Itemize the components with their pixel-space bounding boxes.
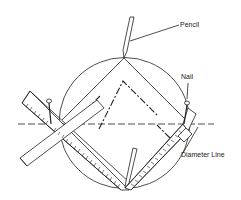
pencil-top-icon — [123, 17, 134, 58]
diameter-line-label: Diameter Line — [181, 151, 225, 158]
square-left-arm — [22, 91, 129, 190]
diagram-canvas: Pencil Nail Diameter Line — [0, 0, 241, 200]
inner-dashed-square — [68, 81, 170, 138]
nail-label: Nail — [181, 73, 194, 80]
right-ruler-end — [178, 108, 196, 142]
pencil-label: Pencil — [180, 21, 200, 28]
pencil-leader — [130, 25, 179, 41]
outer-square-lines — [62, 58, 186, 120]
nail-leader — [187, 83, 188, 99]
